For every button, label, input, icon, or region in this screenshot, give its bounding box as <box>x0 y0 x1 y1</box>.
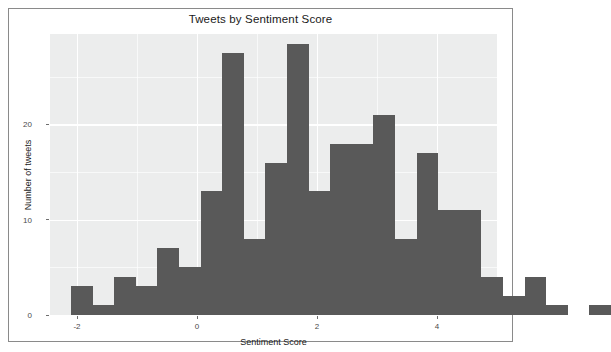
histogram-bar <box>201 191 223 315</box>
x-tick-label: -2 <box>73 322 80 331</box>
histogram-bar <box>373 115 395 315</box>
gridline-h <box>50 315 497 316</box>
figure-frame: Tweets by Sentiment Score 01020 -2024 Se… <box>8 8 513 342</box>
histogram-bar <box>589 305 611 315</box>
histogram-bar <box>287 44 309 315</box>
histogram-bar <box>503 296 525 315</box>
x-axis-label: Sentiment Score <box>50 337 497 347</box>
y-tick-label: 0 <box>28 311 32 320</box>
chart-title: Tweets by Sentiment Score <box>9 13 512 25</box>
y-tick-label: 20 <box>23 120 32 129</box>
x-tick-label: 2 <box>315 322 319 331</box>
y-tick-mark <box>46 124 49 125</box>
histogram-bar <box>114 277 136 315</box>
gridline-v <box>137 34 138 315</box>
histogram-bar <box>93 305 115 315</box>
x-tick-mark <box>197 316 198 319</box>
histogram-bar <box>330 144 352 315</box>
x-tick-mark <box>437 316 438 319</box>
histogram-bar <box>438 210 460 315</box>
histogram-bar <box>244 239 266 315</box>
y-tick-mark <box>46 219 49 220</box>
y-tick-label: 10 <box>23 215 32 224</box>
histogram-bar <box>395 239 417 315</box>
x-tick-mark <box>77 316 78 319</box>
histogram-bar <box>265 163 287 315</box>
histogram-bar <box>417 153 439 315</box>
histogram-bar <box>481 277 503 315</box>
x-tick-label: 4 <box>435 322 439 331</box>
histogram-bar <box>525 277 547 315</box>
histogram-bar <box>136 286 158 315</box>
histogram-bar <box>309 191 331 315</box>
histogram-bar <box>71 286 93 315</box>
y-tick-mark <box>46 315 49 316</box>
plot-panel <box>50 34 497 315</box>
histogram-bar <box>179 267 201 315</box>
histogram-bar <box>157 248 179 315</box>
gridline-v <box>497 34 498 315</box>
histogram-bar <box>222 53 244 315</box>
x-tick-label: 0 <box>195 322 199 331</box>
gridline-h <box>50 124 497 125</box>
x-tick-mark <box>317 316 318 319</box>
histogram-bar <box>460 210 482 315</box>
y-axis-label: Number of tweets <box>23 140 33 211</box>
gridline-v <box>77 34 78 315</box>
gridline-h <box>50 77 497 78</box>
histogram-bar <box>352 144 374 315</box>
histogram-bar <box>546 305 568 315</box>
